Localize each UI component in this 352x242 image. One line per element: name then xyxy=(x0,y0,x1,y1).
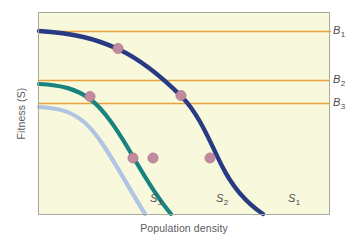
threshold-label-b2-subscript: 2 xyxy=(341,79,345,88)
series-label-s1-text: S xyxy=(288,192,295,204)
series-label-s1: S1 xyxy=(288,192,300,204)
series-label-s2-subscript: 2 xyxy=(224,198,228,207)
threshold-label-b2-text: B xyxy=(333,73,340,85)
threshold-label-b3: B3 xyxy=(333,96,345,108)
series-label-s2: S2 xyxy=(216,192,228,204)
series-label-s1-subscript: 1 xyxy=(296,198,300,207)
chart-figure: B1 B2 B3 S1 S2 S3 Fitness (S) Population… xyxy=(0,0,352,242)
series-label-s3-text: S xyxy=(150,192,157,204)
x-axis-title: Population density xyxy=(38,222,330,234)
intersection-dot-s1-b1 xyxy=(113,43,123,53)
threshold-label-b1-subscript: 1 xyxy=(341,30,345,39)
series-label-s3-subscript: 3 xyxy=(158,198,162,207)
intersection-dot-s3-b3 xyxy=(128,153,138,163)
intersection-dot-s2-b3 xyxy=(148,153,158,163)
intersection-dot-s1-b2 xyxy=(176,90,186,100)
threshold-label-b1-text: B xyxy=(333,24,340,36)
threshold-label-b3-subscript: 3 xyxy=(341,102,345,111)
threshold-label-b3-text: B xyxy=(333,96,340,108)
threshold-label-b2: B2 xyxy=(333,73,345,85)
plot-border xyxy=(39,13,330,215)
intersection-dot-s2-b2 xyxy=(85,91,95,101)
series-label-s2-text: S xyxy=(216,192,223,204)
y-axis-title: Fitness (S) xyxy=(14,12,28,215)
series-label-s3: S3 xyxy=(150,192,162,204)
intersection-dot-s1-b3 xyxy=(205,153,215,163)
threshold-label-b1: B1 xyxy=(333,24,345,36)
